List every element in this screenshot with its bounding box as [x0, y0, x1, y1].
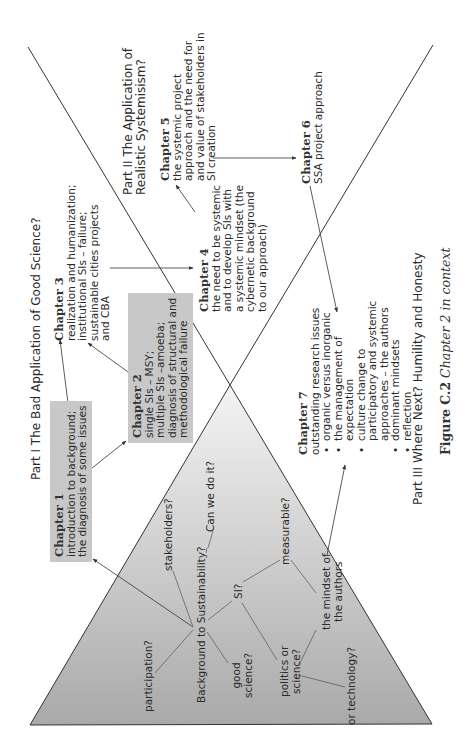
chapter-2-box: Chapter 2 single SIs – MSY; multiple SIs… [128, 293, 193, 443]
node-technology: or technology? [346, 647, 358, 725]
chapter-7-bullet: reflection [402, 301, 414, 441]
node-stakeholders-text: stakeholders? [162, 498, 174, 571]
chapter-4-title: Chapter 4 [198, 185, 211, 312]
node-technology-text: or technology? [345, 647, 357, 725]
node-measurable: measurable? [280, 497, 292, 565]
chapter-7-block: Chapter 7 outstanding research issues or… [297, 301, 413, 455]
chapter-3-title: Chapter 3 [53, 185, 66, 341]
bullet-line: participatory and systemic [367, 301, 379, 441]
node-good-science-line: good [231, 653, 243, 698]
chapter-1-box: Chapter 1 introduction to background; th… [50, 401, 92, 562]
arrow-ch1-to-ch3 [60, 340, 68, 403]
chapter-2-line: methodological failure [178, 298, 190, 438]
chapter-7-bullet: culture change to participatory and syst… [356, 301, 391, 441]
caption-text: Chapter 2 in context [438, 247, 453, 377]
chapter-6-block: Chapter 6 SSA project approach [300, 71, 324, 184]
chapter-2-title: Chapter 2 [131, 298, 144, 438]
chapter-6-line: SSA project approach [313, 71, 325, 184]
node-measurable-text: measurable? [279, 497, 291, 565]
part2-line2: Realistic Systemisism? [135, 48, 148, 195]
figure-caption: Figure C.2 Chapter 2 in context [438, 247, 453, 455]
chapter-5-block: Chapter 5 the systemic project approach … [159, 32, 218, 181]
chapter-4-line: to our approach) [257, 185, 269, 312]
node-mindset-line: the mindset of [321, 553, 333, 630]
node-good-science: good science? [231, 653, 254, 698]
chapter-3-block: Chapter 3 realization and humanization; … [53, 185, 112, 341]
chapter-4-line: and to develop SIs with [222, 185, 234, 312]
chapter-3-line: institutional SIs – failure; [77, 185, 89, 341]
bullet-line: organic versus inorganic [321, 301, 333, 441]
part2-title: Part II The Application of Realistic Sys… [122, 48, 148, 195]
node-mindset-line: the authors [333, 553, 345, 630]
arrow-ch2-to-ch3 [88, 343, 128, 372]
arrow-ch4-to-ch5 [176, 185, 195, 212]
chapter-3-line: and CBA [100, 185, 112, 341]
chapter-7-bullet: dominant mindsets [390, 301, 402, 441]
chapter-1-line: the diagnosis of some issues [77, 406, 89, 557]
part3-title-text: Part III Where Next? Humility and Honest… [411, 252, 425, 505]
arrow-ch6-to-ch7 [310, 186, 337, 312]
chapter-6-title: Chapter 6 [300, 71, 313, 184]
node-participation-text: participation? [142, 640, 154, 712]
part3-title: Part III Where Next? Humility and Honest… [412, 252, 425, 505]
chapter-7-bullets: organic versus inorganic the management … [321, 301, 413, 455]
chapter-7-title: Chapter 7 [297, 301, 310, 455]
node-politics-line: science? [291, 646, 303, 697]
bullet-line: reflection [402, 301, 414, 441]
chapter-7-bullet: organic versus inorganic [321, 301, 333, 441]
chapter-5-line: approach and the need for [183, 32, 195, 181]
arrow-mindset-to-ch7 [327, 465, 345, 555]
chapter-4-block: Chapter 4 the need to be systemic and to… [198, 185, 268, 312]
node-mindset: the mindset of the authors [321, 553, 344, 630]
part1-title-text: Part I The Bad Application of Good Scien… [29, 217, 43, 480]
arrow-ch1-to-ch2 [92, 441, 126, 468]
bullet-line: expectation [344, 301, 356, 441]
chapter-5-line: SI creation [206, 32, 218, 181]
node-center: Background to Sustainability? [196, 546, 208, 703]
node-can-we-do-it: Can we do it? [205, 461, 217, 532]
chapter-1-title: Chapter 1 [53, 406, 66, 557]
node-good-science-line: science? [243, 653, 255, 698]
chapter-5-title: Chapter 5 [159, 32, 172, 181]
chapter-4-line: cybernetic background [245, 185, 257, 312]
chapter-2-line: multiple SIs –amoeba; [155, 298, 167, 438]
node-politics-science: politics or science? [279, 646, 302, 697]
part1-title: Part I The Bad Application of Good Scien… [30, 217, 43, 480]
chapter-7-bullet: the management of expectation [333, 301, 356, 441]
node-stakeholders: stakeholders? [163, 498, 175, 571]
node-politics-line: politics or [279, 646, 291, 697]
node-si: SI? [233, 584, 245, 599]
node-can-we-do-it-text: Can we do it? [204, 461, 216, 532]
node-si-text: SI? [232, 584, 244, 599]
bullet-line: dominant mindsets [390, 301, 402, 441]
node-participation: participation? [143, 640, 155, 712]
node-center-text: Background to Sustainability? [195, 546, 207, 703]
caption-label: Figure C.2 [438, 382, 453, 455]
